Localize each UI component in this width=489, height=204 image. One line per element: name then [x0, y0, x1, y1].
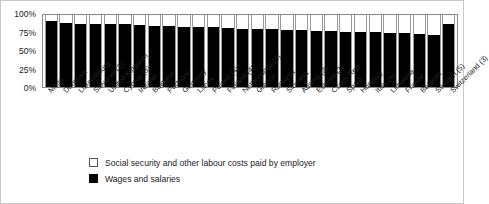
bar-segment-social-security — [399, 15, 410, 33]
bar-segment-social-security — [163, 15, 174, 26]
bar-segment-social-security — [384, 15, 395, 33]
bar-segment-social-security — [325, 15, 336, 31]
bar-segment-social-security — [443, 15, 454, 24]
bar-segment-wages-salaries — [60, 23, 71, 87]
bar-segment-social-security — [281, 15, 292, 30]
legend-label: Wages and salaries — [105, 174, 180, 184]
bar-segment-social-security — [178, 15, 189, 27]
bar-segment-social-security — [60, 15, 71, 23]
bar-segment-social-security — [134, 15, 145, 25]
chart-legend: Social security and other labour costs p… — [89, 157, 419, 189]
legend-item: Social security and other labour costs p… — [89, 157, 419, 168]
y-axis-tick-label: 75% — [19, 29, 36, 37]
bar-segment-social-security — [370, 15, 381, 32]
bar-segment-social-security — [237, 15, 248, 29]
bar-segment-social-security — [119, 15, 130, 24]
stacked-bar — [59, 15, 72, 87]
x-axis-labels: MaltaDenmarkLuxembourgSlovenia (2)United… — [42, 89, 458, 151]
bar-segment-social-security — [252, 15, 263, 29]
legend-label: Social security and other labour costs p… — [105, 158, 316, 168]
y-axis-tick-label: 50% — [19, 47, 36, 55]
bar-segment-social-security — [266, 15, 277, 29]
bar-segment-social-security — [208, 15, 219, 27]
y-axis-tick-label: 0% — [24, 84, 36, 92]
bar-segment-social-security — [149, 15, 160, 26]
bar-segment-social-security — [355, 15, 366, 32]
legend-swatch-open-icon — [89, 158, 98, 167]
y-axis-tick-label: 100% — [14, 10, 36, 18]
y-axis-tick-label: 25% — [19, 66, 36, 74]
y-axis: 100%75%50%25%0% — [1, 7, 39, 95]
bar-segment-social-security — [105, 15, 116, 24]
bar-segment-social-security — [222, 15, 233, 28]
bar-segment-social-security — [90, 15, 101, 24]
bar-segment-social-security — [428, 15, 439, 35]
stacked-bar — [45, 15, 58, 87]
legend-item: Wages and salaries — [89, 173, 419, 184]
bar-segment-wages-salaries — [46, 21, 57, 87]
bar-segment-social-security — [296, 15, 307, 30]
bar-segment-social-security — [414, 15, 425, 34]
bar-segment-social-security — [75, 15, 86, 24]
legend-swatch-filled-icon — [89, 174, 98, 183]
bar-segment-social-security — [340, 15, 351, 32]
bar-segment-social-security — [193, 15, 204, 27]
bar-segment-social-security — [311, 15, 322, 31]
